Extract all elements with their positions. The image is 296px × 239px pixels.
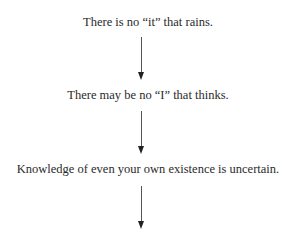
node-no-i-thinks: There may be no “I” that thinks. xyxy=(0,88,296,103)
arrow-down-icon xyxy=(141,37,143,81)
arrow-down-icon xyxy=(141,111,143,155)
node-no-it-rains: There is no “it” that rains. xyxy=(0,15,296,30)
node-existence-uncertain: Knowledge of even your own existence is … xyxy=(0,162,296,177)
arrow-down-icon xyxy=(141,186,143,230)
